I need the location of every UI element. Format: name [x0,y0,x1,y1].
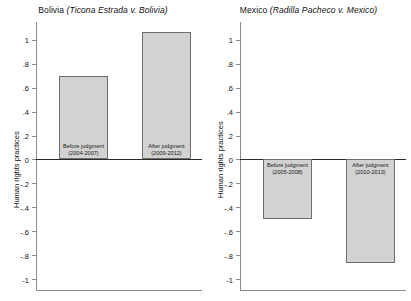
y-tick-label: 0 [229,155,233,164]
panel-title-bolivia: Bolivia (Ticona Estrada v. Bolivia) [0,5,206,15]
bar [59,76,109,160]
x-axis-line [36,290,202,291]
x-axis-line [240,290,406,291]
y-tick-label: .6 [23,84,29,93]
bar [263,159,313,219]
y-tick: .4 [236,112,240,113]
y-tick: .4 [32,112,36,113]
y-tick: 1 [32,40,36,41]
y-tick: -1 [32,279,36,280]
y-tick: .2 [32,136,36,137]
y-tick: -.6 [236,231,240,232]
y-tick: -1 [236,279,240,280]
y-tick-label: -.4 [20,203,29,212]
y-tick-label: .6 [227,84,233,93]
panel-title-country: Mexico [240,5,270,15]
y-tick-label: -.2 [224,179,233,188]
panel-bolivia: Bolivia (Ticona Estrada v. Bolivia) Huma… [0,0,206,301]
y-axis-title-bolivia: Human rights practices [12,131,21,208]
y-tick: -.8 [32,255,36,256]
y-tick-label: -.6 [20,227,29,236]
y-tick: .8 [236,64,240,65]
y-tick-label: -.4 [224,203,233,212]
y-axis-line [36,22,37,291]
y-tick-label: .2 [23,132,29,141]
bar [142,32,192,160]
y-tick-label: .4 [227,108,233,117]
y-axis-line [240,22,241,291]
bar [346,159,396,263]
y-tick: .6 [236,88,240,89]
plot-area-mexico: 1.8.6.4.20-.2-.4-.6-.8-1 Before judgment… [240,22,406,291]
y-tick-label: -1 [226,275,233,284]
y-tick: -.8 [236,255,240,256]
zero-reference-line [36,159,202,160]
y-tick-label: .8 [23,60,29,69]
y-tick: -.2 [32,183,36,184]
y-tick: -.6 [32,231,36,232]
y-tick: -.4 [32,207,36,208]
y-tick-label: -.8 [224,251,233,260]
panel-title-country: Bolivia [38,5,66,15]
y-tick: -.4 [236,207,240,208]
y-tick-label: -.6 [224,227,233,236]
figure-two-panel-bar-chart: Bolivia (Ticona Estrada v. Bolivia) Huma… [0,0,411,301]
y-tick-label: .2 [227,132,233,141]
y-tick-label: 1 [229,36,233,45]
y-tick-label: -1 [22,275,29,284]
plot-area-bolivia: 1.8.6.4.20-.2-.4-.6-.8-1 Before judgment… [36,22,202,291]
y-tick-label: 0 [25,155,29,164]
panel-mexico: Mexico (Radilla Pacheco v. Mexico) Human… [206,0,411,301]
y-tick: 1 [236,40,240,41]
y-tick: .8 [32,64,36,65]
y-tick: -.2 [236,183,240,184]
y-tick-label: .8 [227,60,233,69]
y-tick-label: -.8 [20,251,29,260]
y-tick-label: .4 [23,108,29,117]
panel-title-case: (Radilla Pacheco v. Mexico) [270,5,377,15]
panel-title-mexico: Mexico (Radilla Pacheco v. Mexico) [206,5,411,15]
panel-title-case: (Ticona Estrada v. Bolivia) [67,5,168,15]
y-tick: .2 [236,136,240,137]
y-tick: .6 [32,88,36,89]
y-tick-label: 1 [25,36,29,45]
y-tick-label: -.2 [20,179,29,188]
